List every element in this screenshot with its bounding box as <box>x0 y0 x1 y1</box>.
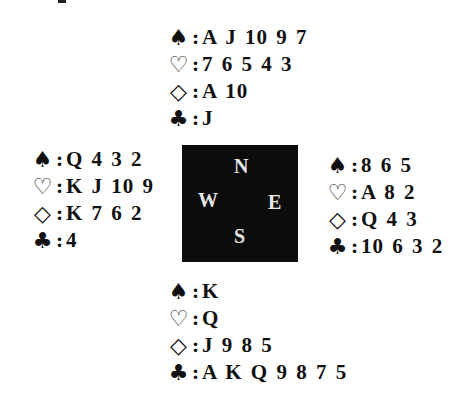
east-diamonds: Q 4 3 <box>361 206 418 233</box>
separator: : <box>190 359 202 386</box>
south-hearts-row: ♡:Q <box>168 305 347 332</box>
separator: : <box>190 332 202 359</box>
separator: : <box>190 24 202 51</box>
separator: : <box>54 200 66 227</box>
separator: : <box>349 233 361 260</box>
compass-south-label: S <box>234 225 245 248</box>
south-diamonds-row: ◇:J 9 8 5 <box>168 332 347 359</box>
separator: : <box>190 78 202 105</box>
spade-icon: ♠ <box>32 146 54 173</box>
north-hearts: 7 6 5 4 3 <box>202 51 293 78</box>
compass-west-label: W <box>198 189 218 212</box>
separator: : <box>54 146 66 173</box>
south-diamonds: J 9 8 5 <box>202 332 273 359</box>
east-diamonds-row: ◇:Q 4 3 <box>327 206 443 233</box>
separator: : <box>54 227 66 254</box>
north-clubs: J <box>202 105 214 132</box>
east-hearts-row: ♡:A 8 2 <box>327 179 443 206</box>
south-clubs: A K Q 9 8 7 5 <box>202 359 347 386</box>
compass-east-label: E <box>268 191 281 214</box>
west-diamonds: K 7 6 2 <box>66 200 143 227</box>
east-spades-row: ♠:8 6 5 <box>327 152 443 179</box>
club-icon: ♣ <box>168 359 190 386</box>
south-hearts: Q <box>202 305 219 332</box>
north-diamonds: A 10 <box>202 78 248 105</box>
separator: : <box>190 278 202 305</box>
diamond-icon: ◇ <box>168 78 190 105</box>
south-spades: K <box>202 278 219 305</box>
south-spades-row: ♠:K <box>168 278 347 305</box>
heart-icon: ♡ <box>32 173 54 200</box>
west-spades-row: ♠:Q 4 3 2 <box>32 146 154 173</box>
south-clubs-row: ♣:A K Q 9 8 7 5 <box>168 359 347 386</box>
separator: : <box>349 179 361 206</box>
separator: : <box>190 305 202 332</box>
spade-icon: ♠ <box>327 152 349 179</box>
hand-south: ♠:K ♡:Q ◇:J 9 8 5 ♣:A K Q 9 8 7 5 <box>168 278 347 386</box>
heart-icon: ♡ <box>168 305 190 332</box>
heart-icon: ♡ <box>327 179 349 206</box>
hand-north: ♠:A J 10 9 7 ♡:7 6 5 4 3 ◇:A 10 ♣:J <box>168 24 308 132</box>
diamond-icon: ◇ <box>32 200 54 227</box>
west-hearts-row: ♡:K J 10 9 <box>32 173 154 200</box>
north-clubs-row: ♣:J <box>168 105 308 132</box>
north-spades-row: ♠:A J 10 9 7 <box>168 24 308 51</box>
club-icon: ♣ <box>32 227 54 254</box>
north-spades: A J 10 9 7 <box>202 24 308 51</box>
west-clubs: 4 <box>66 227 78 254</box>
hand-west: ♠:Q 4 3 2 ♡:K J 10 9 ◇:K 7 6 2 ♣:4 <box>32 146 154 254</box>
separator: : <box>54 173 66 200</box>
west-diamonds-row: ◇:K 7 6 2 <box>32 200 154 227</box>
hand-east: ♠:8 6 5 ♡:A 8 2 ◇:Q 4 3 ♣:10 6 3 2 <box>327 152 443 260</box>
west-clubs-row: ♣:4 <box>32 227 154 254</box>
north-hearts-row: ♡:7 6 5 4 3 <box>168 51 308 78</box>
diamond-icon: ◇ <box>327 206 349 233</box>
spade-icon: ♠ <box>168 24 190 51</box>
club-icon: ♣ <box>327 233 349 260</box>
separator: : <box>190 105 202 132</box>
east-clubs: 10 6 3 2 <box>361 233 443 260</box>
west-hearts: K J 10 9 <box>66 173 154 200</box>
west-spades: Q 4 3 2 <box>66 146 143 173</box>
compass-north-label: N <box>234 155 248 178</box>
clipped-mark <box>58 0 66 3</box>
east-spades: 8 6 5 <box>361 152 412 179</box>
east-clubs-row: ♣:10 6 3 2 <box>327 233 443 260</box>
heart-icon: ♡ <box>168 51 190 78</box>
separator: : <box>349 152 361 179</box>
north-diamonds-row: ◇:A 10 <box>168 78 308 105</box>
east-hearts: A 8 2 <box>361 179 416 206</box>
separator: : <box>190 51 202 78</box>
diamond-icon: ◇ <box>168 332 190 359</box>
compass-table: N W E S <box>182 145 298 262</box>
separator: : <box>349 206 361 233</box>
spade-icon: ♠ <box>168 278 190 305</box>
club-icon: ♣ <box>168 105 190 132</box>
